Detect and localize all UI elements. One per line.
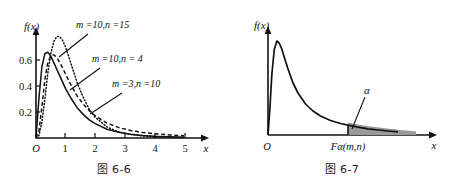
x-tick-label-3: 3 — [122, 143, 127, 154]
figure-6-7-svg: f(x) O x α — [228, 0, 456, 160]
figure-6-7-panel: f(x) O x α — [228, 0, 456, 192]
y-tick-label-0.4: 0.4 — [19, 81, 33, 92]
x-tick-label-2: 2 — [92, 143, 97, 154]
annotation-m10-n15: m =10,n =15 — [76, 19, 129, 30]
figure-6-6-svg: 0.2 0.4 0.6 f(x) 1 2 3 4 — [0, 0, 228, 160]
y-axis-label: f(x) — [24, 20, 40, 33]
y-axis-label-2: f(x) — [254, 19, 270, 32]
curve-m10-n4 — [36, 55, 184, 138]
x-axis-label: x — [203, 142, 209, 154]
curve-m3-n10 — [36, 52, 184, 138]
tail-shaded-region — [348, 122, 416, 135]
figure-6-6-panel: 0.2 0.4 0.6 f(x) 1 2 3 4 — [0, 0, 228, 192]
density-curves-group — [36, 37, 184, 138]
annotation-m10-n4: m =10,n = 4 — [92, 53, 143, 64]
figure-pair: 0.2 0.4 0.6 f(x) 1 2 3 4 — [0, 0, 456, 192]
figure-6-6-plot: 0.2 0.4 0.6 f(x) 1 2 3 4 — [0, 0, 228, 160]
x-axis-arrowhead-2 — [429, 132, 437, 139]
annotation-leaders-group — [59, 34, 122, 114]
leader-line-m10-n4 — [70, 68, 100, 90]
alpha-leader-line — [352, 97, 365, 129]
figure-6-7-caption: 图 6-7 — [228, 160, 456, 176]
x-tick-label-1: 1 — [62, 143, 67, 154]
x-tick-label-4: 4 — [152, 143, 158, 154]
annotation-labels-group: m =10,n =15 m =10,n = 4 m =3,n =10 — [76, 19, 160, 89]
x-axis-arrowhead — [201, 135, 209, 142]
origin-label-2: O — [263, 141, 271, 152]
leader-line-m3-n10 — [90, 93, 122, 114]
annotation-m3-n10: m =3,n =10 — [112, 78, 160, 89]
alpha-label: α — [364, 84, 370, 96]
x-tick-label-5: 5 — [182, 143, 187, 154]
origin-label: O — [32, 143, 40, 154]
curve-m10-n15 — [36, 37, 184, 138]
figure-6-7-plot: f(x) O x α — [228, 0, 456, 160]
density-curve-f — [268, 41, 398, 135]
x-axis-label-2: x — [431, 139, 437, 151]
leader-line-m10-n15 — [59, 34, 88, 57]
y-tick-label-0.2: 0.2 — [19, 107, 32, 118]
figure-6-6-caption: 图 6-6 — [0, 160, 228, 176]
y-tick-label-0.6: 0.6 — [19, 55, 32, 66]
critical-value-label: Fα(m,n) — [330, 141, 366, 153]
